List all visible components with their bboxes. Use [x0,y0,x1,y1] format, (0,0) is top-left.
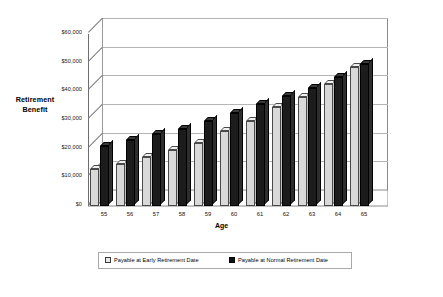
bar-side [239,107,243,204]
x-axis-tick-label: 62 [273,211,299,217]
bar-side [291,90,295,204]
x-axis-tick-label: 64 [325,211,351,217]
bar-face [204,121,213,206]
bar-side [213,115,217,204]
bar-side [187,123,191,204]
x-axis-tick-label: 60 [221,211,247,217]
bar-face [100,146,109,206]
bar-face [126,140,135,206]
legend-swatch-normal-icon [229,257,235,263]
bar-normal-age-57 [152,134,161,206]
x-axis-tick-label: 55 [91,211,117,217]
bar-normal-age-62 [282,96,291,206]
bar-early-age-58 [168,150,177,206]
legend-label-normal: Payable at Normal Retirement Date [238,257,328,263]
x-axis-title: Age [0,222,443,229]
bar-early-age-62 [272,107,281,206]
bar-normal-age-60 [230,113,239,206]
bar-early-age-56 [116,164,125,206]
bar-face [116,164,125,206]
bar-face [324,84,333,206]
bar-face [282,96,291,206]
bar-early-age-63 [298,97,307,206]
y-axis-tick-label: $50,000 [30,58,82,64]
bar-normal-age-63 [308,88,317,206]
y-axis-tick-label: $0 [30,201,82,207]
y-axis-tick-label: $60,000 [30,29,82,35]
bar-side [135,134,139,204]
bar-normal-age-58 [178,129,187,206]
bar-side [343,71,347,204]
bar-face [178,129,187,206]
bar-face [90,169,99,206]
bar-face [246,121,255,206]
chart-legend: Payable at Early Retirement Date Payable… [98,252,352,269]
bar-face [142,157,151,206]
x-axis-tick-label: 61 [247,211,273,217]
bar-face [256,104,265,206]
bar-early-age-65 [350,67,359,206]
bar-face [308,88,317,206]
retirement-benefit-chart: Retirement Benefit $0$10,000$20,000$30,0… [0,0,443,297]
bar-face [360,64,369,206]
bar-early-age-64 [324,84,333,206]
legend-label-early: Payable at Early Retirement Date [114,257,199,263]
plot-area [88,18,388,208]
legend-item-normal: Payable at Normal Retirement Date [229,257,328,263]
bar-face [230,113,239,206]
y-axis-tick-label: $30,000 [30,115,82,121]
bar-side [109,140,113,204]
bar-normal-age-55 [100,146,109,206]
x-axis-tick-label: 58 [169,211,195,217]
bar-normal-age-59 [204,121,213,206]
x-axis-tick-label: 65 [351,211,377,217]
y-axis-tick-labels: $0$10,000$20,000$30,000$40,000$50,000$60… [30,0,82,297]
x-axis-tick-label: 56 [117,211,143,217]
bar-normal-age-56 [126,140,135,206]
bar-face [334,77,343,206]
bar-normal-age-64 [334,77,343,206]
bar-face [350,67,359,206]
bar-face [298,97,307,206]
bar-face [220,131,229,206]
x-axis-tick-label: 59 [195,211,221,217]
bar-early-age-60 [220,131,229,206]
bar-normal-age-61 [256,104,265,206]
legend-item-early: Payable at Early Retirement Date [105,257,199,263]
x-axis-tick-label: 57 [143,211,169,217]
bar-normal-age-65 [360,64,369,206]
bar-side [369,58,373,204]
bar-face [272,107,281,206]
bar-side [161,128,165,204]
y-axis-tick-label: $40,000 [30,86,82,92]
bar-side [317,82,321,204]
x-axis-tick-label: 63 [299,211,325,217]
y-axis-tick-label: $10,000 [30,172,82,178]
bar-early-age-55 [90,169,99,206]
bar-face [168,150,177,206]
bar-face [152,134,161,206]
bar-face [194,143,203,206]
bar-early-age-61 [246,121,255,206]
legend-swatch-early-icon [105,257,111,263]
bar-early-age-57 [142,157,151,206]
bar-early-age-59 [194,143,203,206]
bar-series-group [88,18,388,208]
bar-side [265,98,269,204]
y-axis-tick-label: $20,000 [30,144,82,150]
